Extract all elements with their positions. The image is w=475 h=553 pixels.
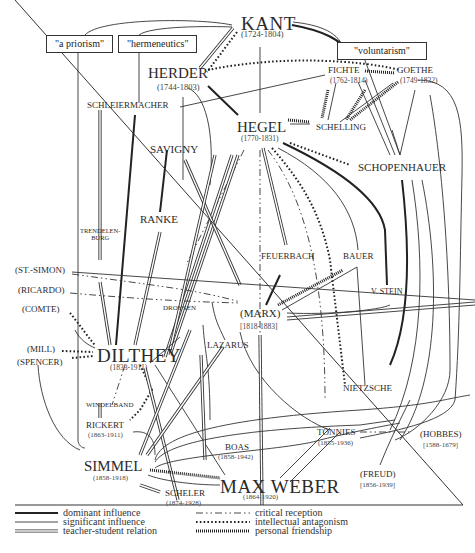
node-max-weber: MAX WEBER [220, 477, 340, 496]
node-goethe: GOETHE [397, 66, 433, 75]
node-schelling: SCHELLING [316, 123, 366, 132]
legend-teacher-student: teacher-student relation [63, 526, 157, 536]
node-hobbes: (HOBBES) [420, 430, 462, 439]
concept-voluntarism: "voluntarism" [337, 42, 427, 60]
node-simmel: SIMMEL [84, 459, 142, 474]
node-hegel-dates: (1770-1831) [241, 135, 279, 143]
node-goethe-dates: (1749-1832) [400, 77, 438, 85]
node-schleiermacher: SCHLEIERMACHER [87, 101, 169, 110]
node-tonnies: TÖNNIES [317, 428, 356, 437]
node-freud-dates: [1856-1939] [360, 482, 395, 489]
concept-a-priorism: "a priorism" [46, 35, 113, 53]
node-ranke: RANKE [140, 214, 178, 225]
node-mill: (MILL) [27, 345, 55, 354]
node-feuerbach: FEUERBACH [261, 252, 315, 261]
node-max-weber-dates: (1864-1920) [243, 494, 278, 501]
node-boas-dates: (1858-1942) [218, 454, 253, 461]
node-scheler: SCHELER [165, 489, 205, 498]
node-fichte: FICHTE [328, 66, 360, 75]
node-nietzsche: NIETZSCHE [343, 384, 392, 393]
node-bauer: BAUER [343, 252, 374, 261]
node-trendelenburg: TRENDELEN- BURG [80, 227, 120, 241]
node-v-stein: V. STEIN [371, 288, 402, 296]
legend-personal-friendship: personal friendship [255, 526, 332, 536]
node-st-simon: (ST.-SIMON) [15, 266, 65, 275]
node-fichte-dates: (1762-1814) [330, 77, 368, 85]
node-boas: BOAS [225, 443, 249, 452]
node-spencer: (SPENCER) [17, 358, 63, 367]
node-marx: (MARX) [240, 308, 280, 319]
node-scheler-dates: (1874-1928) [166, 500, 201, 507]
concept-hermeneutics: "hermeneutics" [118, 35, 197, 53]
node-lazarus: LAZARUS [207, 341, 249, 350]
node-ricardo: (RICARDO) [18, 286, 65, 295]
node-windelband: WINDELBAND [86, 402, 133, 410]
node-herder: HERDER [148, 66, 208, 81]
node-comte: (COMTE) [22, 305, 60, 314]
node-dilthey-dates: (1833-1911) [110, 364, 147, 372]
node-savigny: SAVIGNY [150, 144, 198, 155]
node-rickert-dates: (1863-1911) [88, 432, 123, 439]
node-droysen: DROYSEN [163, 305, 196, 313]
node-freud: (FREUD) [360, 470, 396, 479]
node-simmel-dates: (1858-1918) [93, 475, 128, 482]
node-hegel: HEGEL [237, 120, 286, 135]
node-marx-dates: [1818-1883] [240, 323, 278, 331]
node-hobbes-dates: [1588-1679] [423, 442, 458, 449]
node-rickert: RICKERT [86, 421, 124, 430]
node-schopenhauer: SCHOPENHAUER [358, 162, 446, 173]
node-kant-dates: (1724-1804) [241, 30, 284, 39]
node-herder-dates: (1744-1803) [157, 83, 200, 92]
node-tonnies-dates: (1855-1936) [318, 440, 353, 447]
